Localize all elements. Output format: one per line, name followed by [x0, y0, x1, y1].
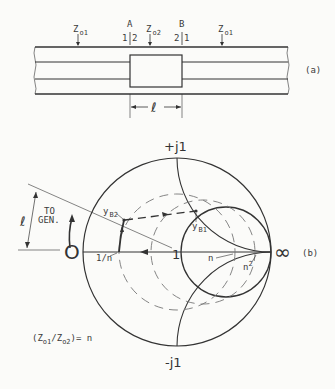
label-plane-b: B [179, 19, 184, 29]
arc-minus-j1 [177, 252, 271, 346]
label-part-b: (b) [302, 248, 318, 258]
label-impedance-ratio: (Zo1/Zo2)= n [32, 333, 92, 346]
transfer-line [125, 211, 196, 220]
label-gen: GEN. [38, 215, 60, 225]
diagram-canvas: Zo1 Zo2 Zo1 A B 1 2 2 1 ℓ (a) [0, 0, 335, 389]
arrowhead [33, 192, 38, 198]
label-b-side-1: 1 [184, 33, 189, 43]
leader-n [216, 254, 233, 258]
label-n: n [208, 253, 213, 263]
label-zo2: Zo2 [146, 24, 161, 37]
label-part-a: (a) [305, 65, 321, 75]
label-yb2: yB2 [103, 206, 118, 219]
label-plus-j1: +j1 [164, 139, 187, 154]
arrowhead [140, 249, 148, 255]
arrowhead [69, 214, 75, 222]
arrowhead [220, 42, 224, 46]
label-a-side-2: 2 [132, 33, 137, 43]
label-n-squared: n2 [243, 260, 253, 272]
label-zo1-left: Zo1 [73, 24, 88, 37]
arrowhead [120, 226, 124, 232]
arrowhead [148, 42, 152, 46]
leader-yb2 [117, 214, 123, 219]
label-center-one: 1 [172, 247, 180, 262]
point-yb1 [194, 209, 197, 212]
label-length-b: ℓ [19, 214, 25, 229]
length-arc [27, 192, 36, 248]
break-right [287, 47, 289, 94]
label-inv-n: 1/n [96, 253, 112, 263]
label-plane-a: A [127, 19, 133, 29]
arrowhead [25, 242, 30, 248]
arrowhead [176, 105, 181, 109]
arc-plus-j1 [177, 158, 271, 252]
label-b-side-2: 2 [174, 33, 179, 43]
section-zo2-box [130, 55, 182, 87]
label-zero: O [64, 240, 80, 264]
arrowhead [76, 42, 80, 46]
break-left [34, 47, 36, 94]
leader-n-squared [252, 255, 256, 262]
label-yb1: yB1 [192, 221, 207, 234]
label-length-a: ℓ [150, 100, 156, 115]
label-infinity: ∞ [274, 240, 291, 264]
transmission-line-diagram: Zo1 Zo2 Zo1 A B 1 2 2 1 ℓ (a) [34, 19, 321, 118]
arrowhead [131, 105, 136, 109]
label-a-side-1: 1 [122, 33, 127, 43]
label-zo1-right: Zo1 [218, 24, 233, 37]
label-minus-j1: -j1 [165, 355, 182, 370]
smith-chart: +j1 -j1 O ∞ 1 1/n n n2 yB2 yB1 ℓ TO GEN.… [18, 139, 318, 370]
